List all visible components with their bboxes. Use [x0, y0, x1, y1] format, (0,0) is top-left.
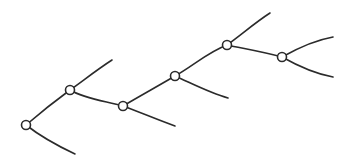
tree-edge-b-c: [70, 90, 123, 106]
tree-edge-c-l3: [123, 106, 175, 126]
tree-edge-f-l7: [282, 57, 333, 77]
tree-diagram: [0, 0, 349, 162]
tree-node-a: [22, 121, 31, 130]
tree-edge-e-l5: [227, 13, 270, 45]
tree-node-e: [223, 41, 232, 50]
tree-edge-f-l6: [282, 37, 333, 57]
tree-edge-a-b: [26, 90, 70, 125]
tree-edge-e-f: [227, 45, 282, 57]
tree-edge-b-l2: [70, 60, 112, 90]
edge-group: [26, 13, 333, 154]
tree-node-c: [119, 102, 128, 111]
tree-diagram-canvas: [0, 0, 349, 162]
tree-node-f: [278, 53, 287, 62]
tree-edge-d-e: [175, 45, 227, 76]
tree-node-b: [66, 86, 75, 95]
tree-edge-a-l1: [26, 125, 75, 154]
node-group: [22, 41, 287, 130]
tree-edge-d-l4: [175, 76, 228, 98]
tree-edge-c-d: [123, 76, 175, 106]
tree-node-d: [171, 72, 180, 81]
